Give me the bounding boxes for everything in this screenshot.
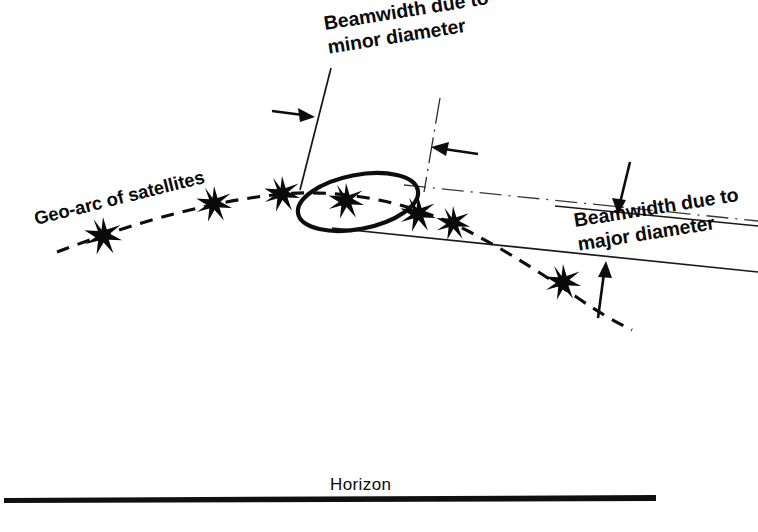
geo-arc-label: Geo-arc of satellites bbox=[32, 166, 207, 229]
satellite-marker-1 bbox=[84, 217, 122, 255]
minor-beam-left-leader-line bbox=[300, 68, 331, 190]
satellite-marker-7 bbox=[545, 264, 581, 300]
arrow-left-to-minor-right-edge-icon bbox=[431, 142, 478, 156]
horizon-label: Horizon bbox=[330, 475, 391, 494]
arrow-right-to-minor-left-edge-icon bbox=[272, 108, 315, 122]
horizon-line-group bbox=[4, 495, 656, 503]
arrow-up-to-major-lower-edge-icon bbox=[598, 261, 612, 318]
minor-beam-right-leader-line bbox=[424, 98, 440, 192]
geo-arc-dashed-path bbox=[57, 193, 632, 330]
horizon-baseline bbox=[4, 495, 656, 503]
diagram-canvas: Beamwidth due to minor diameter Beamwidt… bbox=[0, 0, 758, 532]
beamwidth-diagram-svg: Beamwidth due to minor diameter Beamwidt… bbox=[0, 0, 758, 532]
beamwidth-major-label-group: Beamwidth due to major diameter bbox=[572, 183, 744, 254]
satellite-marker-4 bbox=[328, 183, 364, 219]
satellite-marker-6 bbox=[436, 206, 470, 240]
text-labels-group: Beamwidth due to minor diameter Beamwidt… bbox=[32, 0, 744, 494]
satellite-marker-2 bbox=[196, 186, 232, 222]
geo-arc-label-group: Geo-arc of satellites bbox=[32, 166, 207, 229]
geo-arc-curve-group bbox=[57, 193, 632, 330]
beamwidth-minor-label-group: Beamwidth due to minor diameter bbox=[322, 0, 494, 58]
